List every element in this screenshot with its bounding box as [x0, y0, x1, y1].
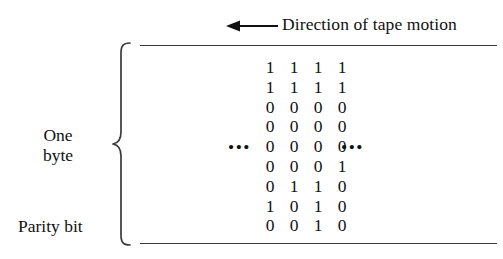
bit-row: 1111	[258, 78, 354, 98]
tape-edge-bottom-rule	[140, 243, 497, 244]
bit-row: 0000	[258, 98, 354, 118]
curly-brace-left-icon	[106, 40, 132, 248]
bit-row: 0110	[258, 177, 354, 197]
bit-row: 0000	[258, 137, 354, 157]
bit-cell: 1	[282, 58, 306, 78]
bit-cell: 1	[282, 78, 306, 98]
bit-cell: 1	[306, 177, 330, 197]
arrow-left-icon	[226, 19, 278, 33]
bit-cell: 0	[330, 216, 354, 236]
bit-cell: 0	[282, 157, 306, 177]
parity-bit-label: Parity bit	[18, 217, 83, 236]
bit-cell: 0	[306, 137, 330, 157]
bit-cell: 0	[330, 117, 354, 137]
bit-cell: 0	[258, 216, 282, 236]
tape-byte-figure: Direction of tape motion One byte Parity…	[0, 0, 503, 259]
bit-cell: 1	[258, 78, 282, 98]
bit-matrix: 111111110000000000000001011010100010	[258, 58, 354, 236]
bit-row: 1111	[258, 58, 354, 78]
bit-cell: 1	[306, 58, 330, 78]
bit-cell: 0	[258, 177, 282, 197]
bit-cell: 1	[258, 58, 282, 78]
bit-cell: 0	[306, 98, 330, 118]
bit-cell: 0	[258, 157, 282, 177]
bit-cell: 0	[282, 98, 306, 118]
bit-cell: 0	[282, 117, 306, 137]
bit-cell: 0	[330, 137, 354, 157]
bit-cell: 1	[306, 78, 330, 98]
bit-cell: 1	[282, 177, 306, 197]
bit-cell: 0	[258, 98, 282, 118]
bit-cell: 1	[330, 78, 354, 98]
bit-cell: 1	[330, 58, 354, 78]
bit-cell: 1	[306, 216, 330, 236]
bit-row: 1010	[258, 197, 354, 217]
bit-row: 0001	[258, 157, 354, 177]
one-byte-label: One byte	[20, 126, 96, 165]
bit-cell: 0	[306, 117, 330, 137]
bit-row: 0010	[258, 216, 354, 236]
bit-cell: 0	[282, 216, 306, 236]
bit-cell: 0	[258, 117, 282, 137]
direction-of-tape-motion-label: Direction of tape motion	[282, 14, 457, 34]
one-byte-label-line2: byte	[20, 146, 96, 166]
bit-cell: 0	[282, 197, 306, 217]
bit-cell: 0	[282, 137, 306, 157]
bit-cell: 1	[306, 197, 330, 217]
ellipsis-left: •••	[228, 138, 251, 158]
bit-cell: 0	[306, 157, 330, 177]
bit-cell: 0	[330, 197, 354, 217]
one-byte-label-line1: One	[20, 126, 96, 146]
bit-row: 0000	[258, 117, 354, 137]
bit-cell: 0	[330, 98, 354, 118]
bit-cell: 0	[258, 137, 282, 157]
bit-cell: 0	[330, 177, 354, 197]
bit-matrix-body: 111111110000000000000001011010100010	[258, 58, 354, 236]
bit-cell: 1	[330, 157, 354, 177]
tape-edge-top-rule	[140, 45, 497, 46]
bit-cell: 1	[258, 197, 282, 217]
